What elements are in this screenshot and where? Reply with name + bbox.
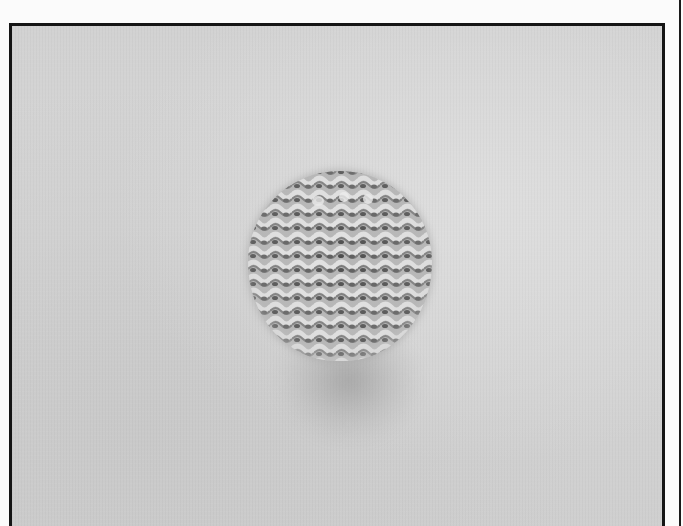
garter-stitch-pattern [248,171,432,361]
photo-frame [9,23,665,526]
knitted-swatch [248,171,432,361]
page [0,0,683,526]
right-edge-rule [679,0,681,526]
